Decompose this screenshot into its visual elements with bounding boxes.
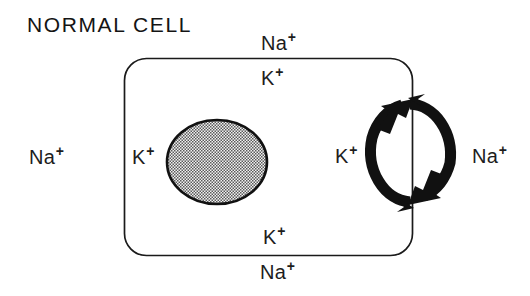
pump-arrow-inward-k [371,99,414,212]
label-na-extracellular-bottom: Na+ [260,262,295,282]
ion-charge: + [288,29,296,45]
page-title: NORMAL CELL [27,14,192,35]
label-k-intracellular-left: K+ [132,147,155,167]
ion-symbol: Na [261,32,287,54]
ion-charge: + [287,258,295,274]
ion-symbol: K [263,226,277,248]
ion-symbol: K [335,145,349,167]
ion-charge: + [275,64,283,80]
label-k-intracellular-top: K+ [261,68,284,88]
ion-symbol: K [132,146,146,168]
ion-symbol: Na [472,145,498,167]
ion-symbol: K [261,67,275,89]
pump-arrow-outward-na [408,94,451,205]
label-k-intracellular-bottom: K+ [263,227,286,247]
ion-charge: + [349,142,357,158]
ion-symbol: Na [29,146,55,168]
label-na-pump-outward: Na+ [472,146,507,166]
label-k-pump-inward: K+ [335,146,358,166]
label-na-extracellular-left: Na+ [29,147,64,167]
normal-cell-diagram: NORMAL CELL Na+ K+ Na+ K+ K+ Na+ K+ Na+ [0,0,530,296]
ion-charge: + [146,143,154,159]
ion-symbol: Na [260,261,286,283]
ion-charge: + [277,223,285,239]
ion-charge: + [56,143,64,159]
label-na-extracellular-top: Na+ [261,33,296,53]
ion-charge: + [499,142,507,158]
